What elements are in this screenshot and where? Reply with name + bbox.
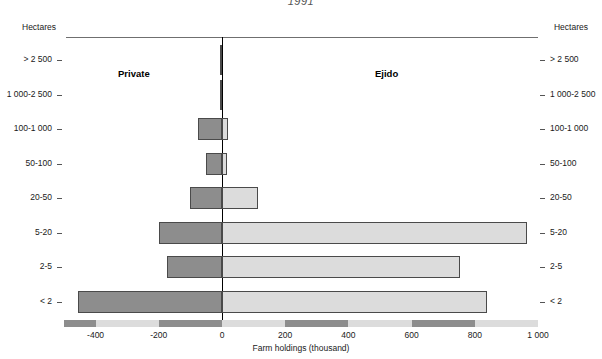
- tick-dash-left: [57, 129, 62, 130]
- x-axis-title: Farm holdings (thousand): [0, 343, 602, 353]
- axis-scale-segment: [222, 320, 254, 327]
- tick-dash-right: [540, 233, 545, 234]
- figure-year-caption: 1991: [0, 0, 602, 7]
- axis-scale-segment: [159, 320, 191, 327]
- chart-row: 5-205-20: [0, 217, 602, 249]
- axis-scale-segment: [348, 320, 380, 327]
- category-label-left: < 2: [0, 296, 52, 306]
- tick-dash-left: [57, 267, 62, 268]
- axis-scale-segment: [190, 320, 222, 327]
- tick-dash-left: [57, 95, 62, 96]
- bar-ejido: [222, 291, 487, 313]
- x-tick-label: -200: [150, 330, 167, 340]
- chart-row: 1 000-2 5001 000-2 500: [0, 79, 602, 111]
- bar-ejido: [222, 222, 527, 244]
- tick-dash-left: [57, 60, 62, 61]
- top-rule-left: [66, 37, 222, 38]
- category-label-right: 5-20: [550, 227, 600, 237]
- axis-scale-segment: [96, 320, 128, 327]
- left-axis-header: Hectares: [22, 22, 56, 32]
- tick-dash-left: [57, 302, 62, 303]
- category-label-left: 2-5: [0, 261, 52, 271]
- axis-scale-segment: [64, 320, 96, 327]
- tick-dash-left: [57, 233, 62, 234]
- category-label-left: > 2 500: [0, 54, 52, 64]
- chart-row: > 2 500> 2 500: [0, 44, 602, 76]
- category-label-right: 20-50: [550, 192, 600, 202]
- chart-row: 50-10050-100: [0, 148, 602, 180]
- top-rule-right: [222, 37, 538, 38]
- tick-dash-left: [57, 164, 62, 165]
- tick-dash-right: [540, 302, 545, 303]
- axis-scale-segment: [506, 320, 538, 327]
- farm-holdings-pyramid-chart: 1991 Hectares Hectares Private Ejido > 2…: [0, 0, 602, 359]
- category-label-right: > 2 500: [550, 54, 600, 64]
- chart-row: 2-52-5: [0, 251, 602, 283]
- bar-ejido: [222, 153, 227, 175]
- tick-dash-right: [540, 267, 545, 268]
- x-tick-label: 200: [278, 330, 292, 340]
- chart-row: 100-1 000100-1 000: [0, 113, 602, 145]
- x-tick-label: 800: [468, 330, 482, 340]
- category-label-right: 2-5: [550, 261, 600, 271]
- category-label-left: 1 000-2 500: [0, 89, 52, 99]
- axis-scale-segment: [475, 320, 507, 327]
- bar-ejido: [222, 118, 228, 140]
- x-tick-label: 0: [220, 330, 225, 340]
- x-tick-label: 400: [341, 330, 355, 340]
- x-tick-label: -400: [87, 330, 104, 340]
- axis-scale-segment: [443, 320, 475, 327]
- axis-scale-segment: [317, 320, 349, 327]
- axis-scale-segment: [380, 320, 412, 327]
- tick-dash-right: [540, 129, 545, 130]
- chart-row: < 2< 2: [0, 286, 602, 318]
- right-axis-header: Hectares: [554, 22, 588, 32]
- bar-ejido: [222, 256, 460, 278]
- bar-private: [167, 256, 222, 278]
- bar-private: [220, 80, 222, 110]
- chart-row: 20-5020-50: [0, 182, 602, 214]
- tick-dash-right: [540, 95, 545, 96]
- category-label-right: < 2: [550, 296, 600, 306]
- bar-ejido: [222, 187, 258, 209]
- tick-dash-right: [540, 198, 545, 199]
- tick-dash-right: [540, 164, 545, 165]
- bar-private: [220, 45, 222, 75]
- axis-scale-segment: [285, 320, 317, 327]
- x-tick-label: 1 000: [527, 330, 548, 340]
- x-tick-label: 600: [405, 330, 419, 340]
- tick-dash-left: [57, 198, 62, 199]
- bar-private: [206, 153, 222, 175]
- category-label-right: 50-100: [550, 158, 600, 168]
- category-label-right: 100-1 000: [550, 123, 600, 133]
- category-label-left: 20-50: [0, 192, 52, 202]
- axis-scale-segment: [127, 320, 159, 327]
- category-label-right: 1 000-2 500: [550, 89, 600, 99]
- axis-scale-segment: [254, 320, 286, 327]
- x-axis-scale-strip: [64, 320, 538, 327]
- category-label-left: 5-20: [0, 227, 52, 237]
- bar-private: [159, 222, 222, 244]
- bar-private: [190, 187, 222, 209]
- bar-private: [198, 118, 222, 140]
- bar-private: [78, 291, 222, 313]
- tick-dash-right: [540, 60, 545, 61]
- category-label-left: 100-1 000: [0, 123, 52, 133]
- axis-scale-segment: [412, 320, 444, 327]
- category-label-left: 50-100: [0, 158, 52, 168]
